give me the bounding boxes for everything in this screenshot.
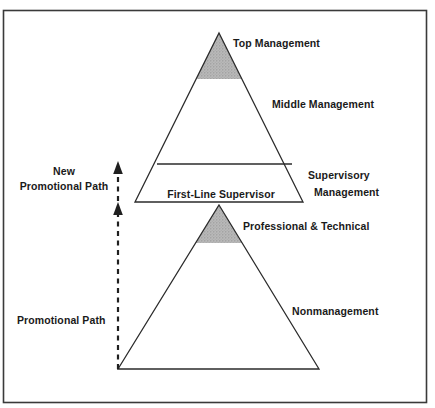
promotional-path-arrowhead (113, 202, 123, 215)
management-pyramid (130, 33, 310, 202)
label-supervisory-management-line1: Supervisory (308, 169, 370, 181)
new-promotional-path-arrow (113, 161, 123, 201)
label-new-promotional-path-line2: Promotional Path (20, 180, 109, 192)
label-middle-management: Middle Management (272, 98, 374, 110)
organizational-pyramid-diagram: Top Management Middle Management Supervi… (0, 0, 435, 408)
label-first-line-supervisor: First-Line Supervisor (167, 188, 275, 200)
promotional-path-arrow (113, 202, 123, 369)
label-top-management: Top Management (233, 37, 320, 49)
label-new-promotional-path-line1: New (53, 165, 76, 177)
diagram-canvas: Top Management Middle Management Supervi… (0, 0, 435, 408)
label-supervisory-management-line2: Management (314, 186, 380, 198)
new-promotional-path-arrowhead (113, 161, 123, 174)
label-promotional-path: Promotional Path (17, 314, 106, 326)
label-professional-technical: Professional & Technical (243, 220, 370, 232)
label-nonmanagement: Nonmanagement (292, 305, 379, 317)
